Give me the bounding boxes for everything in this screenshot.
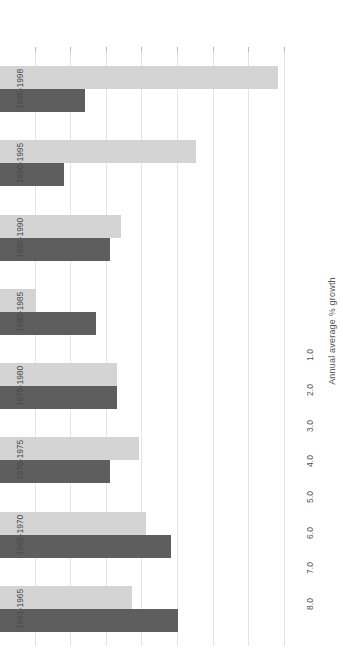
plot-area	[0, 0, 300, 662]
axis-tick-label-text: 4.0	[305, 455, 315, 467]
category-label: 1990-1995	[0, 156, 40, 170]
bar-group	[0, 423, 300, 497]
category-label: 1965-1970	[0, 528, 40, 542]
category-label-text: 1985-1990	[15, 217, 25, 258]
axis-tick-label: 3.0	[299, 419, 321, 433]
bar-group	[0, 349, 300, 423]
category-label-text: 1970-1975	[15, 440, 25, 481]
plot-inner	[0, 0, 300, 662]
category-label-text: 1965-1970	[15, 514, 25, 555]
category-label-text: 1980-1985	[15, 292, 25, 333]
category-label: 1970-1975	[0, 453, 40, 467]
axis-tick-label-group: 1.02.03.04.05.06.07.08.0	[299, 0, 321, 662]
category-label: 1980-1985	[0, 305, 40, 319]
axis-tick-label-text: 6.0	[305, 527, 315, 539]
axis-tick-label: 8.0	[299, 597, 321, 611]
axis-tick-label-text: 5.0	[305, 491, 315, 503]
bar-group	[0, 52, 300, 126]
bar-group	[0, 126, 300, 200]
axis-tick-label: 6.0	[299, 526, 321, 540]
category-label: 1961-1965	[0, 602, 40, 616]
axis-tick-label: 7.0	[299, 561, 321, 575]
category-label-text: 1975-1980	[15, 366, 25, 407]
axis-tick-label: 4.0	[299, 454, 321, 468]
category-label-text: 1961-1965	[15, 589, 25, 630]
bar-group	[0, 201, 300, 275]
axis-tick-label-text: 1.0	[305, 349, 315, 361]
axis-tick-label-text: 8.0	[305, 598, 315, 610]
bar-group	[0, 275, 300, 349]
axis-tick-label: 5.0	[299, 490, 321, 504]
category-label: 1995-1998	[0, 82, 40, 96]
chart-rotated-container: Annual average % growth 1.02.03.04.05.06…	[0, 0, 343, 662]
axis-tick-label: 1.0	[299, 348, 321, 362]
bar-group	[0, 572, 300, 646]
category-label-group: 1961-19651965-19701970-19751975-19801980…	[0, 0, 40, 662]
category-label-text: 1990-1995	[15, 143, 25, 184]
bar-group	[0, 498, 300, 572]
bar-chart-figure: Annual average % growth 1.02.03.04.05.06…	[0, 0, 343, 662]
axis-tick-label-text: 3.0	[305, 420, 315, 432]
axis-tick-label-text: 7.0	[305, 562, 315, 574]
category-label: 1985-1990	[0, 231, 40, 245]
axis-tick-label-text: 2.0	[305, 384, 315, 396]
axis-tick-label: 2.0	[299, 383, 321, 397]
axis-title: Annual average % growth	[321, 0, 343, 662]
bar-series-light	[0, 66, 278, 89]
category-label-text: 1995-1998	[15, 69, 25, 110]
category-label: 1975-1980	[0, 379, 40, 393]
